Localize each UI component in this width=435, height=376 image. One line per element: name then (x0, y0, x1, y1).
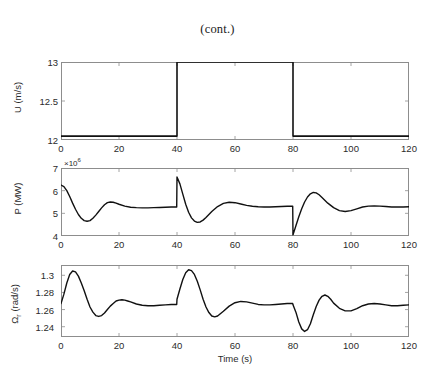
xtick-label: 40 (172, 143, 183, 154)
ytick-label: 1.26 (36, 304, 55, 315)
xtick-label: 60 (230, 239, 241, 250)
xtick-label: 20 (114, 143, 125, 154)
xtick-label: 0 (58, 239, 63, 250)
data-line-P (61, 177, 409, 235)
xtick-label: 120 (401, 340, 417, 351)
ylabel-power: P (MW) (12, 164, 23, 234)
xtick-label: 80 (288, 143, 299, 154)
figure-title: (cont.) (0, 22, 435, 37)
xtick-label: 40 (172, 340, 183, 351)
xtick-label: 100 (343, 340, 359, 351)
ytick-label: 12 (47, 135, 58, 146)
ytick-label: 13 (47, 57, 58, 68)
ytick-labels-wind-speed: 1212.513 (24, 62, 58, 140)
xtick-label: 120 (401, 143, 417, 154)
data-line-Omega_r (61, 270, 409, 332)
ytick-label: 4 (53, 231, 58, 242)
plot-area-power (61, 168, 409, 236)
xtick-label: 80 (288, 239, 299, 250)
ylabel-rotor-speed: Ωr (rad/s) (9, 266, 23, 342)
y-exponent-power: ×106 (64, 157, 81, 168)
subplot-wind-speed (61, 62, 409, 140)
xtick-label: 0 (58, 143, 63, 154)
ytick-label: 5 (53, 208, 58, 219)
ytick-label: 1.24 (36, 321, 55, 332)
subplot-rotor-speed (61, 265, 409, 337)
ytick-label: 1.3 (41, 270, 54, 281)
xtick-labels-wind-speed: 020406080100120 (61, 142, 409, 156)
ylabel-wind-speed: U (m/s) (12, 63, 23, 133)
xtick-labels-power: 020406080100120 (61, 238, 409, 252)
xtick-label: 0 (58, 340, 63, 351)
xtick-label: 40 (172, 239, 183, 250)
subplot-power (61, 168, 409, 236)
ytick-label: 6 (53, 185, 58, 196)
xtick-label: 60 (230, 143, 241, 154)
xtick-label: 120 (401, 239, 417, 250)
xtick-label: 60 (230, 340, 241, 351)
ytick-labels-power: 4567 (24, 168, 58, 236)
figure-container: (cont.) 1212.513 020406080100120 U (m/s)… (0, 0, 435, 376)
ytick-labels-rotor-speed: 1.241.261.281.3 (20, 265, 54, 337)
ytick-label: 7 (53, 163, 58, 174)
xtick-label: 100 (343, 239, 359, 250)
plot-area-rotor-speed (61, 265, 409, 337)
ytick-label: 12.5 (40, 96, 59, 107)
xtick-label: 80 (288, 340, 299, 351)
xtick-label: 20 (114, 340, 125, 351)
data-line-U (61, 62, 409, 136)
plot-area-wind-speed (61, 62, 409, 140)
xtick-labels-rotor-speed: 020406080100120 (61, 339, 409, 353)
xlabel-time: Time (s) (61, 353, 409, 364)
ytick-label: 1.28 (36, 287, 55, 298)
xtick-label: 20 (114, 239, 125, 250)
xtick-label: 100 (343, 143, 359, 154)
